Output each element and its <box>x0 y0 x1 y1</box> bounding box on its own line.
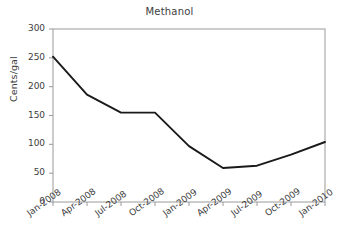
methanol-line-chart: Methanol Cents/gal 300250200150100500 Ja… <box>0 0 339 251</box>
y-axis-ticks <box>49 29 53 202</box>
y-tick-label: 300 <box>15 23 45 33</box>
y-tick-label: 100 <box>15 138 45 148</box>
data-series-line <box>53 57 325 168</box>
y-tick-label: 50 <box>15 167 45 177</box>
y-tick-label: 250 <box>15 52 45 62</box>
plot-frame <box>53 29 325 202</box>
y-tick-label: 150 <box>15 110 45 120</box>
y-tick-label: 200 <box>15 81 45 91</box>
